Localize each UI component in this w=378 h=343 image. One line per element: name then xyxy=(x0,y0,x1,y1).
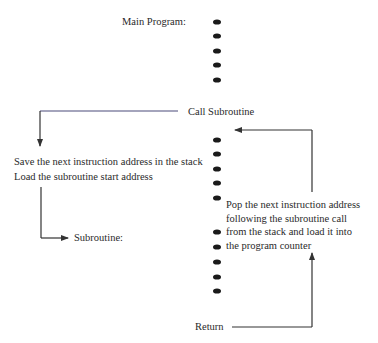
to-subroutine-arrow xyxy=(41,187,68,238)
pop-step-line2: following the subroutine call xyxy=(226,212,347,226)
save-step-line2: Load the subroutine start address xyxy=(14,170,153,184)
pop-step-line4: the program counter xyxy=(226,239,311,253)
call-subroutine-label: Call Subroutine xyxy=(188,105,254,119)
main-program-label: Main Program: xyxy=(122,15,186,29)
continuation-dots xyxy=(213,137,221,293)
call-arrow xyxy=(40,111,178,146)
return-arrow xyxy=(232,253,312,327)
subroutine-flow-diagram: Main Program: Call Subroutine Save the n… xyxy=(0,0,378,343)
pop-step-line1: Pop the next instruction address xyxy=(226,198,360,212)
save-step-line1: Save the next instruction address in the… xyxy=(14,155,203,169)
subroutine-label: Subroutine: xyxy=(74,231,123,245)
return-label: Return xyxy=(195,320,224,334)
main-program-dots xyxy=(213,19,221,82)
resume-arrow xyxy=(235,130,312,192)
pop-step-line3: from the stack and load it into xyxy=(226,225,352,239)
